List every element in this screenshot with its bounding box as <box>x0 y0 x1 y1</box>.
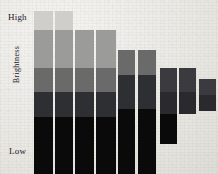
bar-3-segment-3 <box>75 92 94 117</box>
bar-3[interactable] <box>75 30 94 174</box>
bar-5-segment-2 <box>118 75 135 109</box>
bar-8[interactable] <box>179 68 196 114</box>
bar-9-segment-1 <box>199 79 216 95</box>
bar-4-segment-4 <box>96 117 116 174</box>
bar-3-segment-2 <box>75 68 94 92</box>
bar-7-segment-3 <box>160 114 177 144</box>
bar-7-segment-2 <box>160 92 177 114</box>
bar-9-segment-2 <box>199 95 216 111</box>
bar-1-segment-4 <box>34 92 53 117</box>
bar-2-segment-4 <box>55 92 74 117</box>
bar-2-segment-2 <box>55 30 74 68</box>
bar-4[interactable] <box>96 30 116 174</box>
bar-2-segment-5 <box>55 117 74 174</box>
bar-4-segment-3 <box>96 92 116 117</box>
bar-1-segment-2 <box>34 30 53 68</box>
bar-9[interactable] <box>199 79 216 111</box>
y-axis-label-high: High <box>8 12 27 22</box>
bar-1-segment-1 <box>34 11 53 30</box>
bar-3-segment-4 <box>75 117 94 174</box>
bar-6[interactable] <box>138 50 156 174</box>
bar-2-segment-3 <box>55 68 74 92</box>
bar-1[interactable] <box>34 11 53 174</box>
bar-8-segment-1 <box>179 68 196 92</box>
bar-4-segment-1 <box>96 30 116 68</box>
bar-6-segment-3 <box>138 109 156 174</box>
bar-7[interactable] <box>160 68 177 144</box>
bar-7-segment-1 <box>160 68 177 92</box>
bar-5-segment-1 <box>118 50 135 75</box>
y-axis-title-brightness: Brightness <box>12 37 21 93</box>
brightness-bar-chart: High Low Brightness <box>0 0 218 174</box>
bar-4-segment-2 <box>96 68 116 92</box>
bar-1-segment-3 <box>34 68 53 92</box>
bar-3-segment-1 <box>75 30 94 68</box>
bar-2-segment-1 <box>55 11 74 30</box>
bar-5-segment-3 <box>118 109 135 174</box>
bar-6-segment-1 <box>138 50 156 75</box>
bar-8-segment-2 <box>179 92 196 114</box>
bar-5[interactable] <box>118 50 135 174</box>
y-axis-label-low: Low <box>9 146 26 156</box>
bar-1-segment-5 <box>34 117 53 174</box>
bar-6-segment-2 <box>138 75 156 109</box>
bar-2[interactable] <box>55 11 74 174</box>
